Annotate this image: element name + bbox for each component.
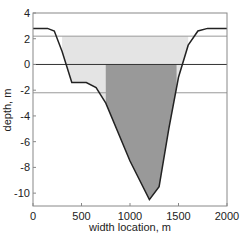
x-tick-label: 0 — [30, 210, 36, 222]
y-tick-label: -8 — [20, 161, 30, 173]
fill-regions — [62, 36, 188, 199]
y-tick-label: -6 — [20, 136, 30, 148]
x-tick-label: 500 — [72, 210, 90, 222]
y-tick-label: 2 — [24, 33, 30, 45]
y-tick-label: -2 — [20, 84, 30, 96]
y-axis-label: depth, m — [1, 89, 13, 132]
y-tick-label: -10 — [14, 187, 30, 199]
y-tick-label: -4 — [20, 110, 30, 122]
x-tick-label: 2000 — [215, 210, 239, 222]
y-tick-label: 4 — [24, 7, 30, 19]
depth-profile-chart: 0500100015002000 420-2-4-6-8-10 width lo… — [0, 0, 244, 236]
main-channel-fill — [106, 64, 177, 199]
x-axis-label: width location, m — [88, 221, 171, 233]
y-tick-label: 0 — [24, 58, 30, 70]
